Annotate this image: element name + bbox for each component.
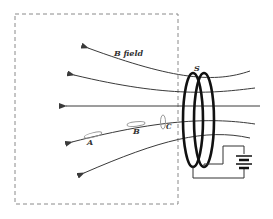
field-line-2 [74,75,255,92]
loop-label-b: B [132,126,140,136]
magnetic-field-diagram: B field S A B C [0,0,273,219]
loop-c [161,115,166,129]
field-line-1 [88,48,250,77]
field-line-5 [84,135,250,173]
dashed-region-boundary [15,14,178,204]
battery-icon [236,156,252,168]
b-field-label: B field [113,48,143,58]
loop-label-a: A [86,137,93,147]
coil-label-s: S [194,63,200,73]
loop-label-c: C [166,122,172,131]
field-lines [66,48,260,173]
coil-s [183,73,214,167]
